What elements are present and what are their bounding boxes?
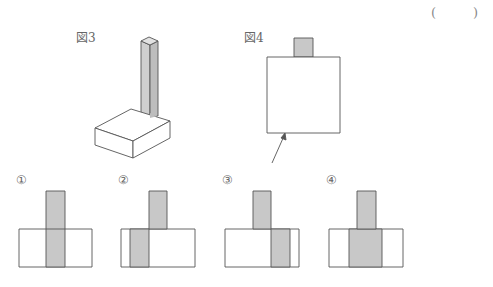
- option-1-figure: [19, 191, 92, 267]
- option-2-figure: [121, 191, 195, 267]
- option-3-figure: [225, 191, 299, 267]
- option-4-figure: [329, 191, 403, 267]
- figures-canvas: [0, 0, 493, 287]
- view-direction-arrow: [272, 133, 286, 163]
- fig3-slab: [95, 109, 170, 158]
- fig4-top-view: [267, 38, 340, 133]
- fig3-prism: [141, 37, 158, 118]
